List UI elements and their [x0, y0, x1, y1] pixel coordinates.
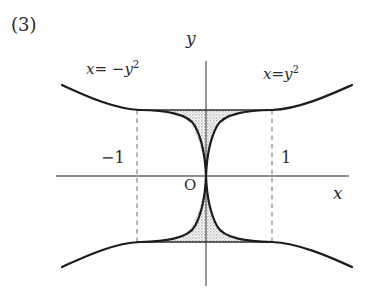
origin-label: O: [184, 178, 196, 193]
plot-canvas: [0, 0, 368, 291]
curve-label-left-var: y: [124, 60, 132, 78]
curve-x-equals-negative-y-squared: [62, 85, 206, 176]
figure-container: (3) x= −y2 x=y2 y x O −1 1: [0, 0, 368, 291]
curve-x-equals-y-squared-lower: [206, 176, 352, 267]
curve-x-equals-y-squared: [206, 85, 352, 176]
curve-label-right: x=y2: [263, 65, 299, 82]
tick-label-positive-one: 1: [281, 150, 291, 166]
curve-label-left: x= −y2: [86, 60, 139, 77]
curve-label-left-exponent: 2: [133, 59, 139, 70]
x-axis-label: x: [333, 185, 343, 202]
tick-label-negative-one: −1: [101, 150, 125, 166]
y-axis-label: y: [186, 30, 196, 47]
curve-label-left-eq: = −: [94, 60, 124, 78]
problem-number-label: (3): [11, 16, 37, 34]
curve-label-right-var: y: [284, 65, 292, 83]
curve-label-right-exponent: 2: [293, 64, 299, 75]
curve-label-right-eq: =: [271, 65, 284, 83]
